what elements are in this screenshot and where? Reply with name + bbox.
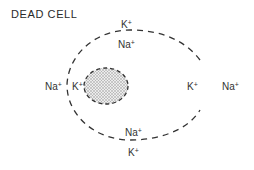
ion-charge: + (79, 81, 83, 88)
label-na-left-outer: Na+ (45, 80, 62, 92)
label-na-right-outer: Na+ (222, 80, 239, 92)
ion-charge: + (194, 81, 198, 88)
ion-symbol: K (72, 81, 79, 92)
ion-charge: + (58, 81, 62, 88)
ion-charge: + (138, 127, 142, 134)
label-k-bottom-outer: K+ (128, 146, 139, 158)
label-k-left-inner: K+ (72, 80, 83, 92)
ion-charge: + (131, 39, 135, 46)
ion-charge: + (128, 19, 132, 26)
ion-symbol: K (121, 19, 128, 30)
ion-symbol: Na (125, 127, 138, 138)
label-na-bottom-inner: Na+ (125, 126, 142, 138)
ion-symbol: Na (45, 81, 58, 92)
ion-symbol: Na (118, 39, 131, 50)
ion-charge: + (235, 81, 239, 88)
label-k-top-outer: K+ (121, 18, 132, 30)
ion-symbol: K (128, 147, 135, 158)
ion-symbol: K (187, 81, 194, 92)
ion-symbol: Na (222, 81, 235, 92)
ion-charge: + (135, 147, 139, 154)
nucleus (84, 68, 128, 104)
label-na-top-inner: Na+ (118, 38, 135, 50)
label-k-right-inner: K+ (187, 80, 198, 92)
